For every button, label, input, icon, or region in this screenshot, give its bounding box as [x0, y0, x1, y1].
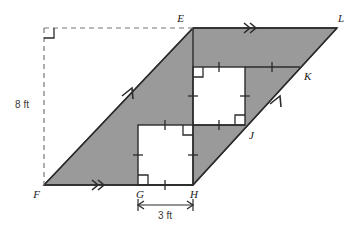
lower-square-fill	[138, 125, 193, 185]
vertex-label-J: J	[249, 129, 255, 141]
geometry-figure: E L K J F G H 8 ft 3 ft	[0, 0, 357, 225]
shaded-band-el	[193, 28, 337, 67]
vertex-label-K: K	[303, 70, 312, 82]
vertex-label-F: F	[32, 188, 40, 200]
figure-canvas: E L K J F G H 8 ft 3 ft	[0, 0, 357, 225]
vertex-label-L: L	[337, 12, 344, 24]
vertex-label-G: G	[136, 188, 144, 200]
base-measurement-label: 3 ft	[158, 210, 172, 221]
right-angle-mark-topleft	[44, 28, 54, 38]
vertex-label-H: H	[189, 188, 199, 200]
upper-square-fill	[193, 67, 245, 125]
height-measurement-label: 8 ft	[15, 99, 29, 110]
vertex-label-E: E	[176, 12, 184, 24]
